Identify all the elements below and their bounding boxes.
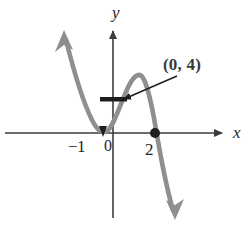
y-axis-label: y	[112, 4, 120, 21]
y-intercept-bar-marker	[100, 97, 127, 102]
x-tick-label-neg1: −1	[68, 138, 85, 155]
x-axis-label: x	[233, 124, 241, 141]
x-tick-label-2: 2	[145, 141, 154, 158]
graph-canvas	[0, 0, 252, 232]
point-label-0-4: (0, 4)	[163, 56, 201, 73]
x-intercept-dot-marker	[150, 128, 160, 138]
cubic-graph-figure: y x 0 −1 2 (0, 4)	[0, 0, 252, 232]
cubic-curve	[66, 40, 173, 210]
curve-arrow-down-icon	[166, 199, 184, 220]
origin-label: 0	[104, 138, 112, 154]
